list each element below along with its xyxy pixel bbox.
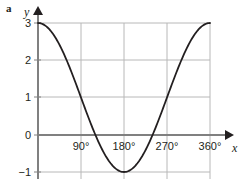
vertical-gridlines <box>81 23 210 179</box>
y-tick-label-3: 3 <box>25 17 31 29</box>
x-tick-label-90: 90° <box>73 140 90 152</box>
x-axis-label: x <box>231 141 238 155</box>
x-tick-label-180: 180° <box>113 140 136 152</box>
x-tick-label-360: 360° <box>199 140 222 152</box>
x-tick-label-270: 270° <box>156 140 179 152</box>
y-tick-label-0: 0 <box>25 129 31 141</box>
y-axis-arrowhead <box>33 6 43 15</box>
y-tick-label-2: 2 <box>25 54 31 66</box>
y-tick-label-1: 1 <box>25 91 31 103</box>
cosine-graph: y x 3 2 1 0 −1 90° 180° 270° 360° <box>0 0 245 179</box>
y-tick-label-minus1: −1 <box>18 166 31 178</box>
x-axis-arrowhead <box>225 130 234 140</box>
figure-container: a <box>0 0 245 179</box>
y-axis <box>33 6 43 179</box>
x-axis <box>38 130 234 140</box>
